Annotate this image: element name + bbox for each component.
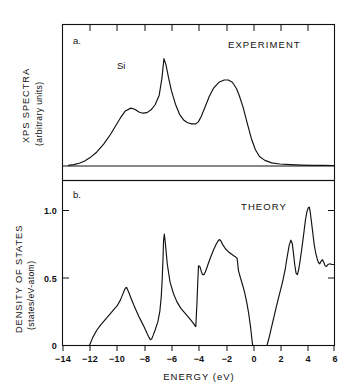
panel-b-x-ticks: [63, 346, 334, 352]
figure-container: a. EXPERIMENT Si b. THEORY XPS SPECTRA (…: [0, 0, 359, 390]
panel-b-y-axis-label-line2: (states/eV-atom): [26, 261, 36, 330]
panel-a-y-axis-label-line1: XPS SPECTRA: [21, 68, 31, 143]
panel-a-letter: a.: [73, 35, 81, 46]
panel-a-species-label: Si: [117, 60, 125, 71]
y-tick-label-1-0: 1.0: [44, 206, 57, 216]
xps-experiment-curve: [68, 59, 334, 166]
x-tick-label-6: 6: [332, 354, 337, 364]
panel-a-y-axis-label-line2: (arbitrary units): [34, 81, 44, 146]
x-tick-label--2: −2: [222, 354, 233, 364]
y-tick-label-0: 0: [52, 341, 57, 351]
panel-b-y-axis-label-line1: DENSITY OF STATES: [14, 225, 24, 333]
panel-a-top-ticks: [90, 25, 308, 32]
x-tick-label-0: 0: [251, 354, 256, 364]
xps-dos-figure: a. EXPERIMENT Si b. THEORY XPS SPECTRA (…: [0, 0, 359, 390]
x-tick-label--6: −6: [167, 354, 178, 364]
dos-valence-band-curve: [89, 234, 252, 345]
x-tick-label--4: −4: [194, 354, 205, 364]
x-tick-label--14: −14: [55, 354, 71, 364]
dos-conduction-band-curve: [267, 207, 334, 345]
panel-b-y-axis-label: DENSITY OF STATES (states/eV-atom): [14, 225, 36, 333]
panel-b-annotation: THEORY: [241, 201, 287, 212]
y-tick-label-0-5: 0.5: [44, 274, 57, 284]
x-tick-labels: −14 −12 −10 −8 −6 −4 −2 0 2 4 6: [55, 354, 338, 364]
x-axis-title: ENERGY (eV): [163, 371, 235, 382]
x-tick-label-4: 4: [305, 354, 310, 364]
x-tick-label--12: −12: [82, 354, 98, 364]
panel-a-annotation: EXPERIMENT: [228, 39, 301, 50]
x-tick-label-2: 2: [278, 354, 283, 364]
panel-b-frame: [63, 181, 335, 346]
x-tick-label--8: −8: [140, 354, 151, 364]
x-tick-label--10: −10: [109, 354, 125, 364]
panel-b-y-tick-labels: 0 0.5 1.0: [44, 206, 57, 351]
panel-b-letter: b.: [73, 189, 81, 200]
panel-a-y-axis-label: XPS SPECTRA (arbitrary units): [21, 68, 44, 146]
